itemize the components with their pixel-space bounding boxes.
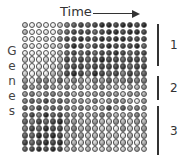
expression-dot <box>127 98 133 104</box>
expression-dot <box>57 29 63 35</box>
expression-dot <box>36 29 42 35</box>
expression-dot <box>92 91 98 97</box>
expression-dot <box>71 139 77 145</box>
expression-dot <box>141 84 147 90</box>
expression-dot <box>29 146 35 152</box>
expression-dot <box>134 91 140 97</box>
expression-dot <box>106 118 112 124</box>
expression-dot <box>29 63 35 69</box>
expression-dot <box>22 105 28 111</box>
expression-dot <box>50 91 56 97</box>
expression-dot <box>29 56 35 62</box>
expression-dot <box>99 43 105 49</box>
expression-dot <box>85 50 91 56</box>
expression-dot <box>43 112 49 118</box>
expression-dot <box>64 112 70 118</box>
expression-dot <box>64 139 70 145</box>
expression-dot <box>134 36 140 42</box>
expression-dot <box>29 125 35 131</box>
expression-dot <box>127 139 133 145</box>
expression-dot <box>106 91 112 97</box>
expression-dot <box>106 29 112 35</box>
expression-dot <box>127 36 133 42</box>
expression-dot <box>43 105 49 111</box>
expression-dot <box>64 146 70 152</box>
expression-dot <box>36 84 42 90</box>
expression-dot <box>50 56 56 62</box>
expression-dot <box>120 112 126 118</box>
expression-dot <box>127 146 133 152</box>
expression-dot <box>43 77 49 83</box>
expression-dot <box>106 84 112 90</box>
expression-dot <box>43 63 49 69</box>
expression-dot <box>134 22 140 28</box>
expression-dot <box>50 29 56 35</box>
expression-dot <box>36 22 42 28</box>
expression-dot <box>113 146 119 152</box>
expression-dot <box>120 70 126 76</box>
expression-dot <box>113 112 119 118</box>
expression-dot <box>120 132 126 138</box>
expression-dot <box>127 63 133 69</box>
expression-dot <box>43 36 49 42</box>
expression-dot <box>106 36 112 42</box>
expression-dot <box>127 70 133 76</box>
expression-dot <box>29 70 35 76</box>
expression-dot <box>106 63 112 69</box>
expression-dot <box>64 63 70 69</box>
cluster-1-label: 1 <box>170 38 178 52</box>
expression-dot <box>106 98 112 104</box>
expression-dot <box>71 77 77 83</box>
expression-dot <box>29 132 35 138</box>
expression-dot <box>127 50 133 56</box>
expression-dot <box>92 98 98 104</box>
expression-dot <box>141 77 147 83</box>
expression-dot <box>50 70 56 76</box>
expression-dot <box>64 36 70 42</box>
expression-dot <box>22 125 28 131</box>
expression-dot <box>36 132 42 138</box>
expression-dot <box>92 84 98 90</box>
expression-dot <box>113 91 119 97</box>
expression-dot <box>50 146 56 152</box>
expression-dot <box>99 105 105 111</box>
expression-dot <box>50 84 56 90</box>
expression-dot <box>57 36 63 42</box>
expression-dot <box>57 56 63 62</box>
expression-dot <box>127 43 133 49</box>
expression-dot <box>92 139 98 145</box>
expression-dot <box>29 29 35 35</box>
expression-dot <box>85 84 91 90</box>
expression-dot <box>134 84 140 90</box>
expression-dot <box>113 22 119 28</box>
expression-dot <box>29 105 35 111</box>
expression-dot <box>99 70 105 76</box>
expression-dot <box>57 77 63 83</box>
expression-dot <box>127 29 133 35</box>
expression-dot <box>134 118 140 124</box>
expression-grid <box>22 22 148 153</box>
expression-dot <box>64 118 70 124</box>
expression-dot <box>78 70 84 76</box>
expression-dot <box>71 98 77 104</box>
expression-dot <box>29 50 35 56</box>
expression-dot <box>134 98 140 104</box>
expression-dot <box>64 43 70 49</box>
expression-dot <box>106 77 112 83</box>
expression-dot <box>36 36 42 42</box>
expression-dot <box>141 125 147 131</box>
expression-dot <box>64 56 70 62</box>
expression-dot <box>50 98 56 104</box>
expression-dot <box>57 70 63 76</box>
expression-dot <box>78 22 84 28</box>
expression-dot <box>22 112 28 118</box>
expression-dot <box>92 118 98 124</box>
expression-dot <box>22 118 28 124</box>
expression-dot <box>71 29 77 35</box>
arrow-right-icon <box>132 10 140 18</box>
expression-dot <box>113 56 119 62</box>
expression-dot <box>57 50 63 56</box>
expression-dot <box>127 105 133 111</box>
expression-dot <box>85 43 91 49</box>
expression-dot <box>29 77 35 83</box>
